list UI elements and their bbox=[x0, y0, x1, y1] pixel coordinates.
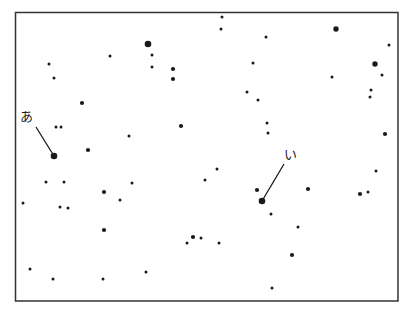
star bbox=[375, 170, 378, 173]
star bbox=[67, 207, 70, 210]
star bbox=[388, 44, 391, 47]
star bbox=[109, 55, 112, 58]
star bbox=[257, 99, 260, 102]
star bbox=[179, 124, 183, 128]
star bbox=[151, 66, 154, 69]
star bbox=[186, 242, 189, 245]
star bbox=[297, 226, 300, 229]
star bbox=[372, 61, 377, 66]
star bbox=[191, 235, 195, 239]
star bbox=[102, 228, 106, 232]
star bbox=[246, 91, 249, 94]
star bbox=[333, 26, 338, 31]
label-a: あ bbox=[20, 109, 33, 124]
star bbox=[171, 67, 175, 71]
star bbox=[131, 182, 134, 185]
star bbox=[151, 54, 154, 57]
star bbox=[221, 16, 224, 19]
star bbox=[306, 187, 310, 191]
star bbox=[52, 278, 55, 281]
star bbox=[267, 132, 270, 135]
star bbox=[145, 271, 148, 274]
star bbox=[86, 148, 90, 152]
star bbox=[331, 76, 334, 79]
star bbox=[252, 62, 255, 65]
star bbox=[171, 77, 175, 81]
star bbox=[370, 89, 373, 92]
star bbox=[102, 190, 106, 194]
star bbox=[45, 181, 48, 184]
map-frame bbox=[16, 13, 399, 302]
star bbox=[119, 199, 122, 202]
star bbox=[102, 278, 105, 281]
star bbox=[128, 135, 131, 138]
star bbox=[266, 122, 269, 125]
star bbox=[63, 181, 66, 184]
star bbox=[216, 168, 219, 171]
star bbox=[381, 74, 384, 77]
star bbox=[145, 41, 152, 48]
star bbox=[29, 268, 32, 271]
star bbox=[53, 77, 56, 80]
star bbox=[367, 191, 370, 194]
star bbox=[255, 188, 259, 192]
star-map: あ い bbox=[0, 0, 408, 315]
star bbox=[55, 126, 58, 129]
star bbox=[358, 192, 362, 196]
star bbox=[60, 126, 63, 129]
star bbox=[59, 206, 62, 209]
star bbox=[204, 179, 207, 182]
star bbox=[265, 36, 268, 39]
star bbox=[200, 237, 203, 240]
star bbox=[270, 213, 273, 216]
star bbox=[220, 28, 223, 31]
star bbox=[22, 202, 25, 205]
star bbox=[290, 253, 294, 257]
star bbox=[271, 287, 274, 290]
star bbox=[80, 101, 84, 105]
star bbox=[218, 242, 221, 245]
star bbox=[48, 63, 51, 66]
star bbox=[369, 96, 372, 99]
star bbox=[383, 132, 387, 136]
label-i: い bbox=[284, 147, 297, 162]
